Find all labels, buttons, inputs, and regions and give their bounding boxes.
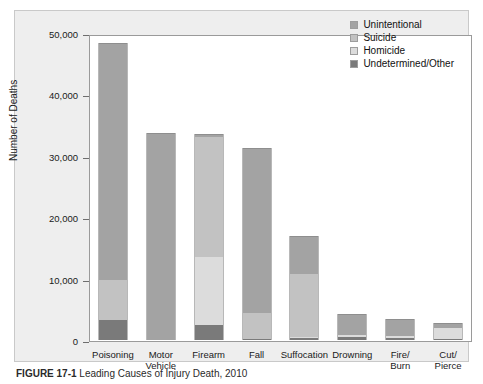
legend-item: Undetermined/Other [350, 58, 454, 69]
legend-label: Unintentional [363, 19, 421, 30]
bar-segment-unintentional [99, 43, 127, 281]
y-tick-label: 10,000 [26, 276, 78, 286]
y-tick-mark [83, 35, 89, 36]
bar-segment-undetermined-other [243, 339, 271, 340]
y-tick-mark [83, 96, 89, 97]
legend-swatch-icon [350, 60, 358, 68]
legend-label: Undetermined/Other [363, 58, 454, 69]
legend-swatch-icon [350, 34, 358, 42]
bar-segment-undetermined-other [386, 338, 414, 340]
y-tick-mark [83, 281, 89, 282]
x-axis-label: Firearm [185, 349, 233, 360]
bar-segment-unintentional [338, 314, 366, 335]
legend-item: Unintentional [350, 19, 454, 30]
chart-panel: 010,00020,00030,00040,00050,000 Number o… [14, 10, 469, 362]
y-tick-label: 40,000 [26, 92, 78, 102]
figure-container: 010,00020,00030,00040,00050,000 Number o… [0, 0, 483, 384]
bar-segment-suicide [243, 313, 271, 339]
bar-segment-homicide [195, 257, 223, 325]
y-tick-label: 30,000 [26, 153, 78, 163]
bar-segment-suicide [99, 280, 127, 319]
bar-segment-undetermined-other [195, 325, 223, 340]
caption-label: FIGURE 17-1 [16, 368, 77, 379]
y-tick-label: 20,000 [26, 214, 78, 224]
legend-label: Homicide [363, 45, 405, 56]
bar-segment-undetermined-other [290, 338, 318, 340]
x-axis-label: Drowning [328, 349, 376, 360]
bar-segment-unintentional [147, 133, 175, 340]
bar-motor-vehicle [146, 133, 176, 340]
legend-swatch-icon [350, 47, 358, 55]
y-tick-label: 50,000 [26, 30, 78, 40]
x-axis-label: Poisoning [89, 349, 137, 360]
bar-segment-homicide [434, 328, 462, 338]
figure-caption: FIGURE 17-1 Leading Causes of Injury Dea… [16, 368, 247, 379]
bar-firearm [194, 134, 224, 340]
bar-suffocation [289, 236, 319, 340]
x-axis-label: Fall [233, 349, 281, 360]
legend-item: Homicide [350, 45, 454, 56]
bar-poisoning [98, 43, 128, 340]
bar-segment-undetermined-other [434, 339, 462, 340]
bar-segment-unintentional [243, 148, 271, 313]
bar-drowning [337, 314, 367, 340]
chart-legend: UnintentionalSuicideHomicideUndetermined… [350, 19, 454, 69]
bar-segment-suicide [290, 274, 318, 337]
bar-fall [242, 148, 272, 340]
y-tick-mark [83, 219, 89, 220]
legend-item: Suicide [350, 32, 454, 43]
legend-label: Suicide [363, 32, 396, 43]
bar-segment-unintentional [386, 319, 414, 336]
legend-swatch-icon [350, 21, 358, 29]
y-tick-mark [83, 158, 89, 159]
bar-cut--pierce [433, 323, 463, 340]
bar-segment-undetermined-other [99, 320, 127, 340]
y-tick-mark [83, 342, 89, 343]
bar-segment-unintentional [290, 236, 318, 274]
bar-segment-suicide [195, 137, 223, 256]
caption-text: Leading Causes of Injury Death, 2010 [79, 368, 247, 379]
x-axis-label: Suffocation [281, 349, 329, 360]
x-axis-label: Cut/ Pierce [424, 349, 472, 371]
y-axis-title: Number of Deaths [8, 80, 19, 161]
y-tick-label: 0 [26, 337, 78, 347]
bar-segment-undetermined-other [338, 337, 366, 340]
bar-fire--burn [385, 319, 415, 340]
x-axis-label: Fire/ Burn [376, 349, 424, 371]
